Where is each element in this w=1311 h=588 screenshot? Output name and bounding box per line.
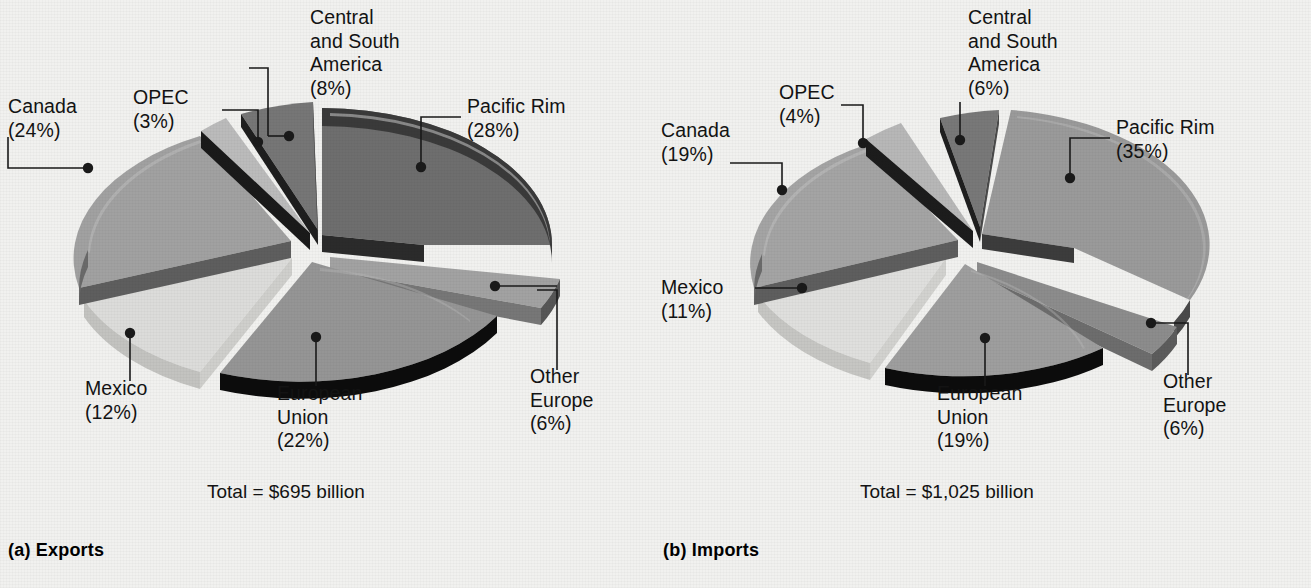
dot-pacific-rim bbox=[1065, 173, 1075, 183]
dot-mexico bbox=[797, 283, 807, 293]
dot-other-europe bbox=[1146, 318, 1156, 328]
dot-opec bbox=[858, 138, 868, 148]
dot-mexico bbox=[125, 328, 135, 338]
imports-leader-lines bbox=[655, 0, 1311, 588]
imports-figure: Canada (19%) OPEC (4%) Central and South… bbox=[655, 0, 1311, 588]
dot-canada bbox=[777, 185, 787, 195]
dot-european-union bbox=[980, 333, 990, 343]
dot-opec bbox=[253, 137, 263, 147]
dot-central-south-america bbox=[955, 135, 965, 145]
dot-pacific-rim bbox=[416, 162, 426, 172]
exports-figure: Canada (24%) OPEC (3%) Central and South… bbox=[0, 0, 655, 588]
dot-canada bbox=[83, 163, 93, 173]
exports-leader-lines bbox=[0, 0, 655, 588]
dot-european-union bbox=[311, 332, 321, 342]
